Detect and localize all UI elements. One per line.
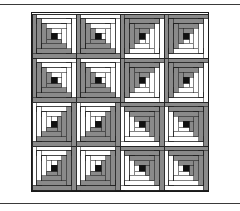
block-r2c2-center-square (95, 77, 101, 83)
block-r3c1-dark-right-0 (71, 102, 76, 146)
block-r3c3-light-top-0 (120, 102, 125, 146)
block-r1c4-light-left-0 (203, 14, 208, 58)
block-r4c2-light-top-0 (76, 146, 120, 151)
block-r3c3-dark-right-0 (120, 102, 164, 107)
block-r1c1-center-square (51, 33, 57, 39)
block-r4c2-dark-bottom-1 (81, 181, 116, 186)
block-r2c1-dark-bottom-0 (32, 58, 37, 102)
block-r2c4-center-square (183, 77, 189, 83)
block-r2c1-dark-right-2 (42, 88, 67, 93)
block-r1c3-light-top-0 (120, 53, 164, 58)
block-r3c1-dark-bottom-1 (37, 137, 72, 142)
block-r3c4-dark-right-3 (178, 116, 194, 121)
log-cabin-quilt-figure (31, 12, 209, 192)
block-r1c4-dark-right-0 (164, 14, 169, 58)
block-r1c4-dark-bottom-1 (169, 19, 204, 24)
block-r3c2-dark-bottom-1 (81, 137, 116, 142)
block-r4c2-dark-bottom-0 (76, 185, 120, 190)
block-r2c3-dark-right-0 (120, 58, 125, 102)
block-r3c3-dark-bottom-1 (155, 107, 160, 142)
block-r3c4-light-left-0 (164, 141, 208, 146)
block-r4c1-dark-bottom-0 (32, 185, 76, 190)
block-r1c4-dark-right-1 (169, 19, 174, 54)
block-r2c3-light-top-0 (120, 97, 164, 102)
block-r1c2-dark-bottom-0 (76, 14, 81, 58)
block-r2c2-dark-right-0 (76, 97, 120, 102)
top-horizontal-rule (0, 4, 240, 5)
block-r4c4-light-top-0 (164, 146, 169, 190)
block-r3c2-dark-right-0 (115, 102, 120, 146)
block-r3c3-light-top-1 (125, 107, 130, 142)
block-r4c4-light-top-1 (169, 151, 174, 186)
block-r1c1-dark-right-0 (32, 53, 76, 58)
block-r2c4-light-top-0 (164, 97, 208, 102)
block-r3c3-dark-right-3 (134, 116, 150, 121)
bottom-horizontal-rule (0, 203, 240, 204)
block-r2c1-dark-right-0 (32, 97, 76, 102)
block-r4c4-center-square (183, 165, 189, 171)
block-r4c3 (120, 146, 164, 190)
block-r3c2-dark-right-3 (101, 116, 106, 132)
block-r2c3-dark-bottom-1 (125, 63, 160, 68)
block-r2c3-center-square (139, 77, 145, 83)
block-r4c4-dark-right-2 (174, 156, 199, 161)
block-r3c1-dark-right-3 (57, 116, 62, 132)
block-r3c4-dark-right-0 (164, 102, 208, 107)
block-r1c3-light-top-1 (125, 49, 160, 54)
block-r3c2-dark-right-2 (106, 112, 111, 137)
block-r4c3-dark-right-2 (130, 156, 155, 161)
block-r3c3-dark-right-2 (130, 112, 155, 117)
block-r2c1-center-square (51, 77, 57, 83)
block-r3c2-center-square (95, 121, 101, 127)
block-r1c4-center-square (183, 33, 189, 39)
block-r1c4 (164, 14, 208, 58)
block-r4c3-dark-right-3 (134, 160, 150, 165)
block-r4c2-light-left-0 (76, 146, 81, 190)
block-r2c3-dark-right-1 (125, 63, 130, 98)
block-r1c4-dark-right-2 (174, 24, 179, 49)
block-r4c4-light-left-1 (169, 181, 204, 186)
block-r1c4-dark-bottom-0 (164, 14, 208, 19)
block-r4c3-center-square (139, 165, 145, 171)
quilt-block-grid (32, 14, 208, 190)
block-r2c4-light-top-1 (169, 93, 204, 98)
block-r4c4 (164, 146, 208, 190)
block-r4c1-light-left-1 (37, 151, 42, 186)
block-r1c2-dark-right-3 (90, 39, 106, 44)
block-r2c3-dark-right-2 (130, 68, 135, 93)
block-r4c2-dark-right-0 (115, 146, 120, 190)
block-r2c2-light-top-0 (115, 58, 120, 102)
block-r1c2-dark-bottom-1 (81, 19, 86, 54)
block-r2c4-dark-bottom-1 (169, 63, 204, 68)
block-r2c1-light-top-1 (67, 63, 72, 98)
block-r4c2-light-left-1 (81, 151, 86, 186)
block-r2c3-dark-bottom-0 (120, 58, 164, 63)
block-r3c2-light-left-0 (76, 102, 81, 146)
block-r4c4-dark-right-0 (164, 146, 208, 151)
block-r4c1 (32, 146, 76, 190)
block-r1c2-center-square (95, 33, 101, 39)
block-r4c1-light-top-1 (37, 151, 72, 156)
block-r1c2-light-top-0 (115, 14, 120, 58)
block-r2c2-light-left-1 (81, 63, 116, 68)
block-r1c2-dark-right-1 (81, 49, 116, 54)
block-r3c4-dark-right-1 (169, 107, 204, 112)
block-r1c3-light-left-0 (159, 14, 164, 58)
block-r1c1-dark-bottom-1 (37, 19, 42, 54)
block-r3c1-dark-bottom-0 (32, 141, 76, 146)
block-r2c4-dark-right-2 (174, 68, 179, 93)
quilt-canvas (31, 12, 209, 192)
block-r1c1-light-top-0 (71, 14, 76, 58)
block-r4c3-dark-right-0 (120, 146, 164, 151)
block-r1c1 (32, 14, 76, 58)
block-r1c1-light-left-0 (32, 14, 76, 19)
block-r4c1-dark-right-1 (67, 151, 72, 186)
block-r1c3 (120, 14, 164, 58)
block-r3c4-light-top-0 (164, 102, 169, 146)
block-r3c3-dark-right-1 (125, 107, 160, 112)
block-r2c3-dark-right-3 (134, 72, 139, 88)
block-r3c1 (32, 102, 76, 146)
block-r4c3-light-left-0 (120, 185, 164, 190)
block-r4c1-dark-right-0 (71, 146, 76, 190)
block-r1c1-dark-right-1 (37, 49, 72, 54)
